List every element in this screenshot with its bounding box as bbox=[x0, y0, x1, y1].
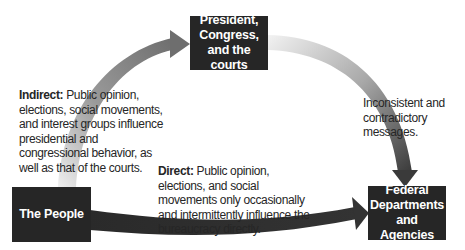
direct-title: Direct: bbox=[158, 164, 194, 178]
node-the-people: The People bbox=[12, 187, 91, 242]
indirect-edge-label: Indirect: Public opinion, elections, soc… bbox=[19, 88, 169, 175]
inconsistent-edge-label: Inconsistent and contradictory messages. bbox=[363, 96, 453, 140]
influence-diagram: President, Congress, and the courts The … bbox=[0, 0, 465, 250]
node-label: Federal Departments and Agencies bbox=[370, 183, 444, 243]
indirect-title: Indirect: bbox=[19, 88, 63, 102]
node-president-congress-courts: President, Congress, and the courts bbox=[190, 16, 268, 70]
node-label: The People bbox=[19, 207, 84, 222]
node-federal-departments: Federal Departments and Agencies bbox=[368, 186, 446, 240]
direct-edge-label: Direct: Public opinion, elections, and s… bbox=[158, 164, 318, 237]
node-label: President, Congress, and the courts bbox=[194, 13, 264, 73]
inconsistent-text: Inconsistent and contradictory messages. bbox=[363, 96, 445, 139]
